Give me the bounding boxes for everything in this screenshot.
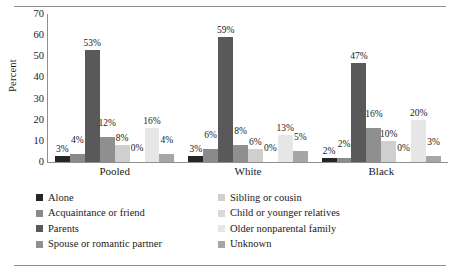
legend-item[interactable]: Alone: [36, 193, 218, 204]
bar[interactable]: [115, 145, 130, 162]
bar[interactable]: [248, 149, 263, 162]
legend-swatch-icon: [218, 194, 225, 201]
legend-item[interactable]: Acquaintance or friend: [36, 208, 218, 219]
bar-slot: 47%: [351, 14, 366, 162]
legend-label: Spouse or romantic partner: [48, 239, 162, 250]
y-tick-label: 10: [34, 136, 45, 147]
plot-area: Percent 706050403020100 3%4%53%12%8%0%16…: [0, 14, 456, 186]
bar-value-label: 8%: [116, 134, 129, 144]
bar[interactable]: [100, 137, 115, 162]
legend-item[interactable]: Parents: [36, 224, 218, 235]
y-tick-label: 20: [34, 114, 45, 125]
bar-value-label: 6%: [204, 131, 217, 141]
bar-slot: 6%: [248, 14, 263, 162]
legend-swatch-icon: [218, 210, 225, 217]
bar-value-label: 4%: [71, 136, 84, 146]
bar-value-label: 20%: [410, 109, 427, 119]
y-tick-label: 70: [34, 9, 45, 20]
bar-slot: 16%: [145, 14, 160, 162]
bar-value-label: 3%: [189, 145, 202, 155]
bar-slot: 8%: [115, 14, 130, 162]
bar[interactable]: [426, 156, 441, 162]
bottom-divider-rule: [14, 265, 446, 266]
x-axis-category-label: Black: [315, 165, 448, 177]
legend-swatch-icon: [36, 194, 43, 201]
bar-group: 2%2%47%16%10%0%20%3%Black: [315, 14, 448, 162]
bar-slot: 3%: [55, 14, 70, 162]
bar-slot: 16%: [366, 14, 381, 162]
bar[interactable]: [278, 135, 293, 162]
bar-group-bars: 2%2%47%16%10%0%20%3%: [315, 14, 448, 162]
bar[interactable]: [188, 156, 203, 162]
legend-item[interactable]: Older nonparental family: [218, 224, 432, 235]
bar-slot: 3%: [426, 14, 441, 162]
y-axis-ticks: 706050403020100: [18, 14, 44, 162]
legend-label: Sibling or cousin: [230, 193, 302, 204]
bar[interactable]: [293, 151, 308, 162]
bar[interactable]: [322, 158, 337, 162]
bar-value-label: 13%: [277, 124, 294, 134]
legend-label: Parents: [48, 224, 79, 235]
bar-value-label: 53%: [84, 39, 101, 49]
bar-slot: 4%: [159, 14, 174, 162]
y-tick-label: 50: [34, 51, 45, 62]
legend-item[interactable]: Spouse or romantic partner: [36, 239, 218, 250]
bar-slot: 2%: [337, 14, 352, 162]
bar-value-label: 8%: [234, 127, 247, 137]
legend-label: Older nonparental family: [230, 224, 336, 235]
legend-swatch-icon: [36, 210, 43, 217]
bar-value-label: 0%: [131, 144, 144, 154]
bar[interactable]: [145, 128, 160, 162]
bar-slot: 5%: [293, 14, 308, 162]
bar-value-label: 10%: [380, 130, 397, 140]
chart-legend: AloneSibling or cousinAcquaintance or fr…: [36, 190, 436, 252]
bar-slot: 2%: [322, 14, 337, 162]
bar-slot: 0%: [396, 14, 411, 162]
bar-value-label: 3%: [56, 145, 69, 155]
bar-slot: 3%: [188, 14, 203, 162]
bar-value-label: 2%: [338, 140, 351, 150]
legend-swatch-icon: [218, 225, 225, 232]
bar-value-label: 0%: [397, 144, 410, 154]
legend-label: Acquaintance or friend: [48, 208, 145, 219]
legend-swatch-icon: [36, 225, 43, 232]
bar[interactable]: [55, 156, 70, 162]
legend-item[interactable]: Sibling or cousin: [218, 193, 432, 204]
bar-slot: 13%: [278, 14, 293, 162]
bar-slot: 20%: [411, 14, 426, 162]
bar[interactable]: [337, 158, 352, 162]
bar-slot: 53%: [85, 14, 100, 162]
bar-value-label: 0%: [264, 144, 277, 154]
legend-item[interactable]: Child or younger relatives: [218, 208, 432, 219]
y-axis-label: Percent: [7, 46, 18, 106]
bar-groups: 3%4%53%12%8%0%16%4%Pooled3%6%59%8%6%0%13…: [48, 14, 448, 162]
bar-value-label: 59%: [217, 26, 234, 36]
bar-value-label: 12%: [98, 119, 115, 129]
bar[interactable]: [381, 141, 396, 162]
bar[interactable]: [159, 154, 174, 162]
bar-slot: 0%: [263, 14, 278, 162]
bar-slot: 12%: [100, 14, 115, 162]
bar[interactable]: [85, 50, 100, 162]
bar-group-bars: 3%4%53%12%8%0%16%4%: [48, 14, 181, 162]
y-tick-label: 60: [34, 30, 45, 41]
figure-container: Percent 706050403020100 3%4%53%12%8%0%16…: [0, 0, 456, 275]
legend-label: Unknown: [230, 239, 271, 250]
bar[interactable]: [233, 145, 248, 162]
y-tick-label: 40: [34, 72, 45, 83]
x-axis-line: [47, 162, 448, 163]
bar-group-bars: 3%6%59%8%6%0%13%5%: [181, 14, 314, 162]
bar[interactable]: [70, 154, 85, 162]
top-divider-rule: [14, 6, 446, 7]
bar[interactable]: [203, 149, 218, 162]
bar-slot: 4%: [70, 14, 85, 162]
bar[interactable]: [411, 120, 426, 162]
bar-value-label: 16%: [365, 110, 382, 120]
legend-swatch-icon: [218, 241, 225, 248]
bar-slot: 10%: [381, 14, 396, 162]
bar-value-label: 47%: [350, 52, 367, 62]
bar[interactable]: [218, 37, 233, 162]
legend-swatch-icon: [36, 241, 43, 248]
legend-label: Alone: [48, 193, 74, 204]
legend-item[interactable]: Unknown: [218, 239, 432, 250]
